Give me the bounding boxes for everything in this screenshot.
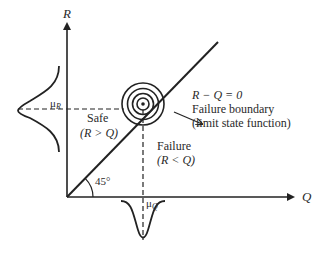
q-axis-label: Q bbox=[302, 189, 312, 204]
reliability-diagram: R Q μR μQ Safe (R > Q) Failure (R < Q) R… bbox=[0, 0, 325, 257]
boundary-equation: R − Q = 0 bbox=[191, 88, 242, 102]
mean-point bbox=[141, 102, 145, 106]
r-axis-label: R bbox=[62, 6, 71, 21]
safe-condition: (R > Q) bbox=[80, 126, 118, 140]
mu-r-label: μR bbox=[50, 97, 61, 111]
failure-label: Failure bbox=[157, 139, 191, 153]
boundary-label: Failure boundary bbox=[192, 102, 274, 116]
mu-q-label: μQ bbox=[146, 197, 158, 211]
angle-label: 45° bbox=[95, 175, 110, 187]
limit-state-label: (limit state function) bbox=[192, 116, 291, 130]
failure-condition: (R < Q) bbox=[157, 153, 195, 167]
safe-label: Safe bbox=[87, 111, 108, 125]
angle-arc bbox=[85, 179, 93, 197]
